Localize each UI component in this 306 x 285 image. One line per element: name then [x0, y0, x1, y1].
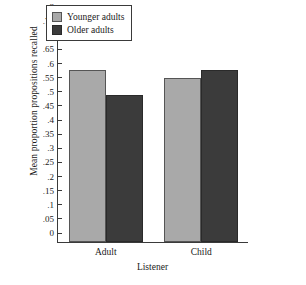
legend-item: Younger adults	[52, 10, 124, 23]
y-tick-label: .65	[43, 45, 58, 54]
legend-label: Older adults	[67, 25, 114, 35]
y-tick-label: .5	[47, 87, 58, 96]
bar	[69, 70, 106, 242]
bar	[164, 78, 201, 242]
plot-area: .8.75.7.65.6.55.5.45.4.35.3.25.2.15.1.05…	[57, 17, 248, 243]
y-tick-label: .35	[43, 130, 58, 139]
y-tick-label: .15	[43, 186, 58, 195]
legend-label: Younger adults	[67, 12, 124, 22]
y-tick-label: .6	[47, 59, 58, 68]
bar	[106, 95, 143, 242]
x-tick-label: Child	[191, 247, 212, 257]
y-tick-label: .3	[47, 144, 58, 153]
y-tick-label: .45	[43, 101, 58, 110]
y-tick-label: .1	[47, 200, 58, 209]
y-tick-label: .25	[43, 158, 58, 167]
bar-chart: Mean proportion propositions recalled .8…	[0, 0, 306, 285]
y-tick-label: .2	[47, 172, 58, 181]
bar	[201, 70, 238, 242]
legend-swatch-icon	[52, 12, 62, 22]
y-axis-title: Mean proportion propositions recalled	[29, 6, 39, 196]
y-tick-label: 0	[50, 229, 59, 238]
x-tick-label: Adult	[95, 247, 117, 257]
legend-swatch-icon	[52, 25, 62, 35]
legend: Younger adultsOlder adults	[46, 5, 132, 41]
y-tick-label: .55	[43, 73, 58, 82]
y-tick-label: .4	[47, 116, 58, 125]
y-tick-label: .05	[43, 214, 58, 223]
legend-item: Older adults	[52, 23, 124, 36]
x-axis-title: Listener	[57, 262, 248, 272]
